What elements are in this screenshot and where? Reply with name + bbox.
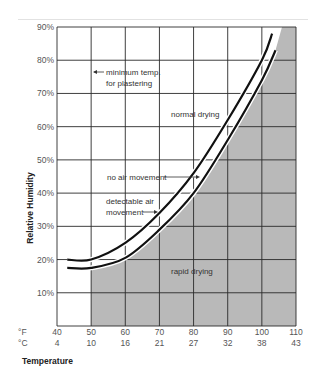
x-tick-label: 38 <box>257 338 267 348</box>
x-tick-label: 21 <box>155 338 165 348</box>
detectable-air-annotation: detectable air movement <box>106 197 158 217</box>
arrow-left-icon <box>93 70 97 74</box>
x-tick-label: 27 <box>189 338 199 348</box>
y-tick-label: 20% <box>37 255 54 265</box>
x-tick-label: 50 <box>86 327 96 337</box>
x-tick-label: 4 <box>55 338 60 348</box>
y-tick-label: 40% <box>37 188 54 198</box>
min-temp-label-line2: for plastering <box>106 79 152 88</box>
min-temp-label-line1: minimum temp. <box>106 68 161 77</box>
x-tick-label: 110 <box>289 327 303 337</box>
detectable-label-line2: movement <box>106 208 144 217</box>
y-tick-label: 80% <box>37 55 54 65</box>
x-tick-label: 43 <box>291 338 301 348</box>
x-tick-label: 32 <box>223 338 233 348</box>
normal-drying-label: normal drying <box>171 110 219 119</box>
x-tick-label: 16 <box>121 338 131 348</box>
y-tick-label: 60% <box>37 122 54 132</box>
x-tick-label: 90 <box>223 327 233 337</box>
x-tick-label: 60 <box>121 327 131 337</box>
x-axis-ticks: 404501060167021802790321003811043 <box>52 327 303 348</box>
x-axis-title: Temperature <box>22 356 73 366</box>
unit-c-label: °C <box>18 338 28 348</box>
x-tick-label: 80 <box>189 327 199 337</box>
y-axis-ticks: 10%20%30%40%50%60%70%80%90% <box>37 22 54 298</box>
unit-f-label: °F <box>18 327 27 337</box>
arrow-right-icon <box>196 175 200 179</box>
y-tick-label: 70% <box>37 88 54 98</box>
rapid-drying-label: rapid drying <box>171 267 213 276</box>
y-tick-label: 30% <box>37 221 54 231</box>
detectable-label-line1: detectable air <box>106 197 154 206</box>
y-tick-label: 90% <box>37 22 54 32</box>
y-tick-label: 50% <box>37 155 54 165</box>
y-tick-label: 10% <box>37 288 54 298</box>
humidity-temperature-chart: 10%20%30%40%50%60%70%80%90% 404501060167… <box>0 0 312 374</box>
x-tick-label: 70 <box>155 327 165 337</box>
no-air-label: no air movement <box>107 173 167 182</box>
x-tick-label: 40 <box>52 327 62 337</box>
y-axis-title: Relative Humidity <box>25 172 35 244</box>
min-temp-annotation: minimum temp. for plastering <box>93 68 161 88</box>
x-tick-label: 100 <box>255 327 269 337</box>
x-tick-label: 10 <box>86 338 96 348</box>
